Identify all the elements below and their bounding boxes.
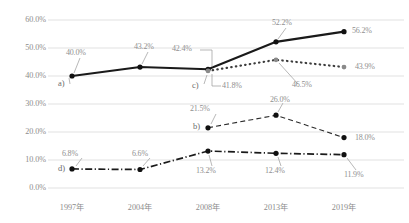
data-point-d-2013	[273, 151, 278, 156]
series-b-line	[205, 113, 346, 141]
y-axis-tick-0: 0.0%	[0, 183, 46, 192]
y-axis-tick-20: 20.0%	[0, 127, 46, 136]
data-point-c-2019	[342, 65, 347, 70]
data-point-d-2004	[137, 167, 142, 172]
line-chart: 60.0% 50.0% 40.0% 30.0% 20.0% 10.0% 0.0%…	[0, 0, 409, 223]
data-label-b-2013: 26.0%	[270, 95, 290, 104]
data-point-a-2019	[341, 29, 346, 34]
y-axis-tick-50: 50.0%	[0, 43, 46, 52]
x-axis-tick-1997: 1997年	[42, 200, 102, 212]
data-label-a-2013: 52.2%	[272, 18, 292, 27]
series-marker-b: b)	[193, 121, 200, 131]
data-label-a-1997: 40.0%	[66, 48, 86, 57]
series-marker-a: a)	[58, 78, 65, 88]
x-axis-tick-2004: 2004年	[110, 200, 170, 212]
leader-a-1997	[74, 58, 80, 73]
leader-d-2008	[209, 155, 212, 166]
data-label-d-2004: 6.6%	[132, 149, 148, 158]
data-point-d-1997	[69, 166, 74, 171]
series-marker-d: d)	[58, 163, 65, 173]
label-leader-lines	[69, 28, 356, 170]
data-label-d-2019: 11.9%	[344, 170, 363, 179]
x-axis-tick-2008: 2008年	[178, 200, 238, 212]
data-point-a-2013	[273, 39, 278, 44]
data-label-d-2008: 13.2%	[196, 166, 216, 175]
data-label-a-2019: 56.2%	[352, 26, 372, 35]
leader-d-2013	[278, 157, 281, 166]
data-point-a-1997	[69, 73, 74, 78]
y-axis-tick-10: 10.0%	[0, 155, 46, 164]
y-axis-tick-60: 60.0%	[0, 15, 46, 24]
leader-a-2004	[142, 52, 148, 64]
data-label-a-2008: 42.4%	[172, 44, 192, 53]
leader-d-1997	[76, 158, 82, 166]
data-point-d-2019	[341, 152, 346, 157]
data-point-d-2008	[205, 148, 210, 153]
data-label-c-2019: 43.9%	[355, 62, 375, 71]
series-marker-c: c)	[192, 80, 199, 90]
series-c-line	[206, 57, 347, 73]
x-axis-tick-2019: 2019年	[314, 200, 374, 212]
data-point-b-2019	[341, 135, 346, 140]
data-label-d-2013: 12.4%	[265, 166, 285, 175]
leader-b-2008	[211, 114, 216, 124]
data-point-b-2013	[273, 113, 278, 118]
data-label-b-2008: 21.5%	[190, 104, 210, 113]
data-label-c-2008: 41.8%	[222, 81, 242, 90]
data-label-a-2004: 43.2%	[134, 42, 154, 51]
data-point-c-2008	[206, 69, 211, 74]
leader-d-2004	[143, 158, 150, 166]
data-point-c-2013	[274, 57, 279, 62]
data-point-b-2008	[205, 125, 210, 130]
data-label-d-1997: 6.8%	[62, 149, 78, 158]
data-label-c-2013: 46.5%	[292, 80, 312, 89]
leader-a-1997-marker	[69, 78, 70, 84]
x-axis-tick-2013: 2013年	[246, 200, 306, 212]
data-label-b-2019: 18.0%	[355, 133, 375, 142]
y-axis-tick-40: 40.0%	[0, 71, 46, 80]
data-point-a-2004	[137, 64, 142, 69]
leader-a-2013	[278, 28, 286, 39]
y-axis-tick-30: 30.0%	[0, 99, 46, 108]
